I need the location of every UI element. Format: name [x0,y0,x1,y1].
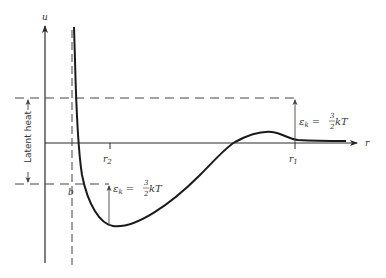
svg-text:kT: kT [149,183,163,194]
svg-text:εk =: εk = [113,183,134,196]
r2-label: r2 [103,154,112,166]
b-label: b [68,187,74,197]
svg-text:kT: kT [335,116,349,127]
r1-label: r1 [289,154,298,166]
svg-text:εk =: εk = [299,116,320,129]
r-axis-label: r [365,138,370,148]
u-axis-label: u [42,12,48,22]
lower-kinetic-energy-label: εk = 3 2 kT [113,179,163,198]
upper-kinetic-energy-label: εk = 3 2 kT [299,112,349,131]
latent-heat-label: Latent heat [23,111,33,163]
potential-diagram: u r Latent heat r2 r1 εk = 3 2 kT b εk [0,0,386,278]
